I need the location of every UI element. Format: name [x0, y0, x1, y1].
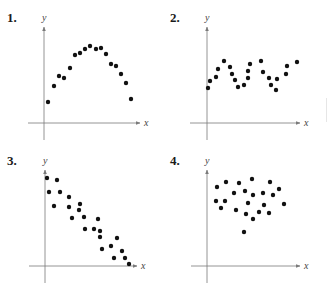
scatter-plot-2: yx [190, 12, 309, 140]
data-point [215, 185, 219, 189]
data-point [246, 201, 250, 205]
y-axis-label: y [204, 12, 210, 23]
data-point [268, 180, 272, 184]
data-point [70, 216, 74, 220]
y-axis-label: y [204, 155, 210, 166]
data-point [295, 60, 299, 64]
data-point [222, 59, 226, 63]
data-point [267, 76, 271, 80]
x-axis-label: x [303, 117, 309, 128]
data-point [109, 62, 113, 66]
data-point [119, 72, 123, 76]
data-point [224, 180, 228, 184]
data-point [120, 249, 124, 253]
data-point [214, 199, 218, 203]
data-point [55, 178, 59, 182]
data-point [57, 74, 61, 78]
data-point [259, 59, 263, 63]
data-point [94, 47, 98, 51]
data-point [208, 79, 212, 83]
data-point [257, 210, 261, 214]
data-point [100, 247, 104, 251]
data-point [261, 70, 265, 74]
data-point [230, 72, 234, 76]
scatter-plot-4: yx [191, 155, 309, 283]
data-point [216, 67, 220, 71]
y-axis-label: y [41, 12, 47, 23]
data-point [67, 205, 71, 209]
data-point [233, 78, 237, 82]
data-point [45, 176, 49, 180]
data-point [78, 51, 82, 55]
data-point [242, 230, 246, 234]
data-point [129, 97, 133, 101]
data-point [262, 203, 266, 207]
data-point [251, 193, 255, 197]
data-point [206, 86, 210, 90]
data-point [248, 62, 252, 66]
data-point [96, 217, 100, 221]
data-point [271, 193, 275, 197]
data-point [236, 85, 240, 89]
data-point [68, 66, 72, 70]
data-point [92, 227, 96, 231]
data-point [223, 199, 227, 203]
data-point [275, 77, 279, 81]
data-point [246, 69, 250, 73]
scatter-plot-grid: 1. 2. 3. 4. yx yx yx yx [0, 0, 334, 297]
data-point [243, 189, 247, 193]
data-point [83, 227, 87, 231]
data-point [112, 256, 116, 260]
x-axis-label: x [303, 260, 309, 271]
data-point [234, 208, 238, 212]
data-point [237, 181, 241, 185]
data-point [242, 83, 246, 87]
data-point [250, 177, 254, 181]
data-point [246, 76, 250, 80]
scatter-plot-3: yx [29, 155, 146, 283]
data-point [88, 44, 92, 48]
data-point [52, 84, 56, 88]
data-point [99, 46, 103, 50]
data-point [83, 47, 87, 51]
y-axis-label: y [42, 155, 48, 166]
x-axis-label: x [143, 117, 149, 128]
plots-svg: yx yx yx yx [0, 0, 334, 297]
data-point [284, 72, 288, 76]
data-point [73, 53, 77, 57]
data-point [282, 202, 286, 206]
data-point [274, 88, 278, 92]
data-point [219, 206, 223, 210]
data-point [214, 75, 218, 79]
data-point [232, 191, 236, 195]
data-point [269, 83, 273, 87]
data-point [47, 190, 51, 194]
right-edge-mark [326, 98, 334, 122]
data-point [98, 229, 102, 233]
data-point [77, 208, 81, 212]
x-axis-label: x [140, 260, 146, 271]
data-point [127, 262, 131, 266]
data-point [261, 191, 265, 195]
data-point [104, 52, 108, 56]
data-point [228, 65, 232, 69]
data-point [67, 195, 71, 199]
data-point [277, 187, 281, 191]
data-point [251, 217, 255, 221]
data-point [98, 235, 102, 239]
data-point [78, 202, 82, 206]
data-point [124, 81, 128, 85]
data-point [267, 211, 271, 215]
data-point [46, 100, 50, 104]
data-point [82, 215, 86, 219]
data-point [285, 64, 289, 68]
data-point [58, 190, 62, 194]
data-point [244, 212, 248, 216]
data-point [123, 256, 127, 260]
data-point [52, 204, 56, 208]
data-point [114, 64, 118, 68]
data-point [62, 76, 66, 80]
data-point [115, 236, 119, 240]
scatter-plot-1: yx [28, 12, 149, 140]
data-point [109, 244, 113, 248]
